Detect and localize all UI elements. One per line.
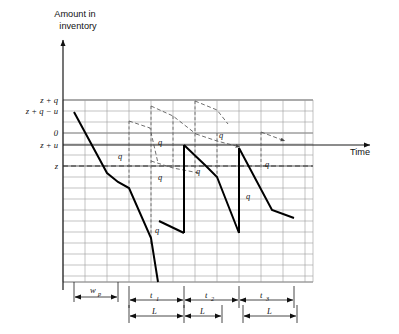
chart-canvas: q q q q q q q q z + q z + q − u 0 z + u … bbox=[0, 0, 399, 334]
y-axis-title-line2: inventory bbox=[59, 21, 97, 31]
dimension-subscript-t3: 3 bbox=[265, 295, 269, 302]
y-tick-label: z bbox=[54, 161, 59, 171]
y-tick-label: z + q − u bbox=[25, 106, 58, 116]
dimension-row-t: t 1 t 2 t 3 bbox=[129, 286, 294, 308]
dimension-subscript-wp: p bbox=[97, 290, 101, 297]
q-label: q bbox=[158, 138, 162, 147]
q-label: q bbox=[155, 226, 159, 235]
dimension-label-L1: L bbox=[151, 306, 157, 316]
ghost-cycle-lines bbox=[129, 101, 285, 173]
q-label: q bbox=[219, 131, 223, 140]
dimension-row-wp: w p bbox=[74, 282, 118, 302]
y-tick-label: 0 bbox=[54, 128, 59, 138]
y-axis-title-line1: Amount in bbox=[54, 9, 95, 19]
dimension-label-L2: L bbox=[199, 306, 205, 316]
dimension-label-t2: t bbox=[205, 290, 208, 300]
dimension-subscript-t2: 2 bbox=[211, 295, 214, 302]
y-axis-title: Amount in inventory bbox=[54, 9, 97, 31]
x-axis-title: Time bbox=[350, 147, 370, 157]
dimension-subscript-t1: 1 bbox=[156, 295, 159, 302]
dimension-label-t3: t bbox=[260, 290, 263, 300]
dimension-row-L: L L L bbox=[129, 305, 297, 323]
y-tick-label: z + q bbox=[39, 95, 58, 105]
dimension-label-t1: t bbox=[150, 290, 153, 300]
q-annotations: q q q q q q q q bbox=[118, 131, 269, 235]
q-label: q bbox=[246, 192, 250, 201]
dimension-label-L3: L bbox=[266, 306, 272, 316]
y-axis-tick-labels: z + q z + q − u 0 z + u z bbox=[25, 95, 59, 171]
q-label: q bbox=[196, 167, 200, 176]
grid-horizontal-minor bbox=[63, 111, 313, 276]
y-tick-label: z + u bbox=[39, 140, 58, 150]
inventory-chart-figure: q q q q q q q q z + q z + q − u 0 z + u … bbox=[0, 0, 399, 334]
q-label: q bbox=[118, 152, 122, 161]
q-label: q bbox=[265, 160, 269, 169]
dimension-label-wp: w bbox=[90, 285, 96, 295]
q-label: q bbox=[158, 173, 162, 182]
